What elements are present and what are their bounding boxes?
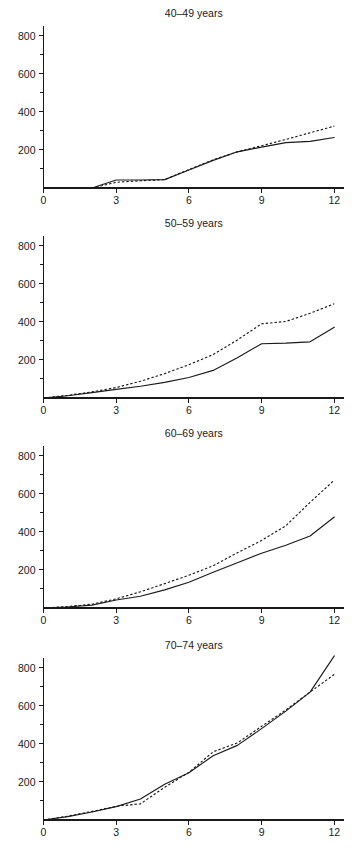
series-line-solid bbox=[44, 138, 335, 188]
y-tick-label: 200 bbox=[18, 144, 36, 156]
x-tick-label: 12 bbox=[328, 826, 340, 838]
series-line-solid bbox=[44, 327, 335, 398]
y-tick-label: 600 bbox=[18, 488, 36, 500]
figure-cumulative-incidence-panels: 40–49 years20040060080003691250–59 years… bbox=[0, 0, 354, 863]
series-line-dashed bbox=[44, 480, 335, 608]
y-tick-label: 600 bbox=[18, 68, 36, 80]
y-tick-label: 600 bbox=[18, 700, 36, 712]
x-tick-label: 0 bbox=[41, 404, 47, 416]
panel-title: 40–49 years bbox=[165, 7, 223, 19]
y-tick-label: 800 bbox=[18, 240, 36, 252]
series-line-solid bbox=[44, 517, 335, 608]
chart-panel-4: 70–74 years200400600800036912Years after… bbox=[0, 632, 354, 842]
y-tick-label: 200 bbox=[18, 776, 36, 788]
x-axis-title: Years after randomization bbox=[134, 841, 253, 842]
x-tick-label: 9 bbox=[259, 194, 265, 206]
panel-title: 70–74 years bbox=[165, 639, 223, 651]
y-tick-label: 400 bbox=[18, 316, 36, 328]
x-tick-label: 9 bbox=[259, 826, 265, 838]
chart-panel-1: 40–49 years200400600800036912 bbox=[0, 0, 354, 210]
y-tick-label: 200 bbox=[18, 354, 36, 366]
x-tick-label: 12 bbox=[328, 614, 340, 626]
x-tick-label: 9 bbox=[259, 404, 265, 416]
y-tick-label: 200 bbox=[18, 564, 36, 576]
series-line-dashed bbox=[44, 126, 335, 188]
y-tick-label: 400 bbox=[18, 526, 36, 538]
x-tick-label: 0 bbox=[41, 614, 47, 626]
panel-title: 50–59 years bbox=[165, 217, 223, 229]
y-tick-label: 400 bbox=[18, 738, 36, 750]
x-tick-label: 3 bbox=[113, 826, 119, 838]
x-tick-label: 6 bbox=[186, 614, 192, 626]
x-tick-label: 3 bbox=[113, 404, 119, 416]
y-tick-label: 400 bbox=[18, 106, 36, 118]
y-tick-label: 600 bbox=[18, 278, 36, 290]
x-tick-label: 12 bbox=[328, 404, 340, 416]
y-tick-label: 800 bbox=[18, 450, 36, 462]
x-tick-label: 3 bbox=[113, 614, 119, 626]
chart-panel-2: 50–59 years200400600800036912 bbox=[0, 210, 354, 420]
series-line-dashed bbox=[44, 674, 335, 820]
y-tick-label: 800 bbox=[18, 30, 36, 42]
x-tick-label: 0 bbox=[41, 194, 47, 206]
series-line-dashed bbox=[44, 304, 335, 398]
y-tick-label: 800 bbox=[18, 662, 36, 674]
x-tick-label: 0 bbox=[41, 826, 47, 838]
x-tick-label: 9 bbox=[259, 614, 265, 626]
x-tick-label: 12 bbox=[328, 194, 340, 206]
x-tick-label: 6 bbox=[186, 826, 192, 838]
panel-title: 60–69 years bbox=[165, 427, 223, 439]
x-tick-label: 6 bbox=[186, 194, 192, 206]
series-line-solid bbox=[44, 656, 335, 820]
chart-panel-3: 60–69 years200400600800036912 bbox=[0, 420, 354, 630]
x-tick-label: 3 bbox=[113, 194, 119, 206]
x-tick-label: 6 bbox=[186, 404, 192, 416]
